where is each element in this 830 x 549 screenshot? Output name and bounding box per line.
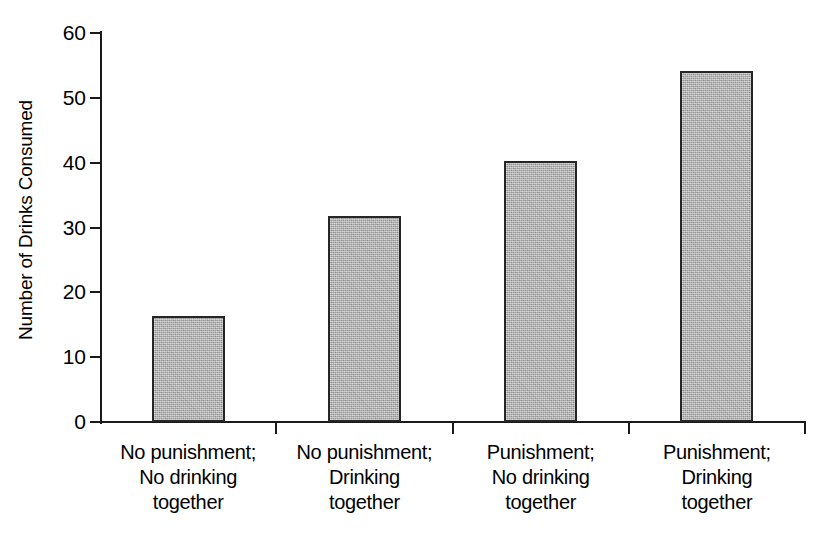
y-axis-tick-label: 10 <box>40 346 86 367</box>
category-label-line: No punishment; <box>276 440 452 465</box>
x-axis-tick-mark <box>628 423 630 434</box>
category-label-line: together <box>453 490 629 515</box>
y-axis-tick-mark <box>90 356 100 358</box>
y-axis-tick-mark <box>90 32 100 34</box>
category-label-line: Drinking <box>629 465 805 490</box>
x-axis-category-label: Punishment;Drinkingtogether <box>629 440 805 515</box>
bar <box>152 316 225 422</box>
y-axis-tick-mark <box>90 291 100 293</box>
category-label-line: together <box>629 490 805 515</box>
y-axis-tick-label: 20 <box>40 281 86 302</box>
x-axis-category-label: No punishment;Drinkingtogether <box>276 440 452 515</box>
y-axis-tick-label: 0 <box>40 411 86 432</box>
category-label-line: No drinking <box>453 465 629 490</box>
y-axis-tick-label: 50 <box>40 87 86 108</box>
category-label-line: together <box>100 490 276 515</box>
y-axis-title: Number of Drinks Consumed <box>8 0 44 440</box>
y-axis-tick-mark <box>90 97 100 99</box>
x-axis-tick-mark <box>452 423 454 434</box>
category-label-line: No drinking <box>100 465 276 490</box>
bar <box>680 71 753 422</box>
plot-area <box>100 33 805 422</box>
x-axis-tick-mark <box>804 423 806 434</box>
y-axis-tick-mark <box>90 227 100 229</box>
y-axis-tick-mark <box>90 421 100 423</box>
x-axis-category-label: Punishment;No drinkingtogether <box>453 440 629 515</box>
y-axis-tick-label: 60 <box>40 22 86 43</box>
bar <box>328 216 401 422</box>
category-label-line: No punishment; <box>100 440 276 465</box>
category-label-line: Drinking <box>276 465 452 490</box>
category-label-line: Punishment; <box>453 440 629 465</box>
y-axis-tick-label: 40 <box>40 152 86 173</box>
x-axis-category-label: No punishment;No drinkingtogether <box>100 440 276 515</box>
x-axis-tick-mark <box>275 423 277 434</box>
category-label-line: Punishment; <box>629 440 805 465</box>
bar <box>504 161 577 422</box>
y-axis-tick-mark <box>90 162 100 164</box>
y-axis-tick-label: 30 <box>40 217 86 238</box>
category-label-line: together <box>276 490 452 515</box>
bar-chart: Number of Drinks Consumed 6050403020100 … <box>0 0 830 549</box>
